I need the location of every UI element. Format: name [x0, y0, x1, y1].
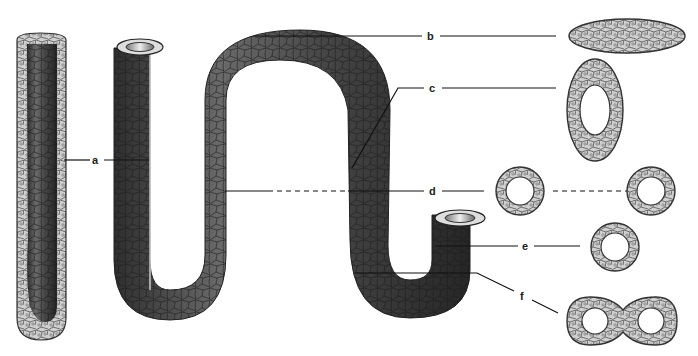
label-b: b	[427, 30, 434, 42]
cross-section-b	[569, 19, 685, 53]
diagram-canvas: a b c d e f	[0, 0, 698, 356]
label-c: c	[429, 82, 435, 94]
convoluted-tube	[114, 30, 470, 320]
label-f: f	[520, 290, 524, 302]
cross-section-d-left	[496, 167, 544, 215]
cross-section-e	[591, 223, 639, 271]
label-e: e	[522, 240, 528, 252]
tube-diagram: a b c d e f	[0, 0, 698, 356]
cross-section-d-right	[627, 167, 675, 215]
label-a: a	[92, 154, 99, 166]
cross-section-c	[567, 59, 623, 161]
longitudinal-section	[17, 33, 66, 340]
tube-opening-right	[435, 210, 485, 226]
label-d: d	[429, 185, 436, 197]
cross-section-f	[567, 297, 677, 345]
tube-opening-left	[117, 39, 163, 55]
